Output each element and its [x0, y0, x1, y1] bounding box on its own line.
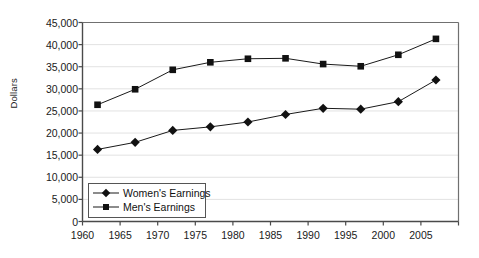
x-axis-tick-label: 1980 — [221, 230, 244, 241]
x-axis-tick-labels: 1960196519701975198019851990199520002005 — [0, 0, 479, 258]
x-axis-tick-label: 1995 — [334, 230, 357, 241]
x-axis-tick-label: 1960 — [71, 230, 94, 241]
x-axis-tick-label: 1985 — [259, 230, 282, 241]
x-axis-tick-label: 1965 — [108, 230, 131, 241]
chart-legend: Women's Earnings Men's Earnings — [88, 183, 206, 218]
x-axis-tick-label: 1990 — [296, 230, 319, 241]
legend-item-womens-earnings: Women's Earnings — [93, 186, 199, 200]
x-axis-tick-label: 1970 — [146, 230, 169, 241]
x-axis-tick-label: 1975 — [184, 230, 207, 241]
diamond-marker-icon — [93, 187, 119, 199]
legend-label: Men's Earnings — [119, 201, 195, 213]
legend-item-mens-earnings: Men's Earnings — [93, 200, 199, 214]
legend-label: Women's Earnings — [119, 187, 211, 199]
x-axis-tick-label: 2000 — [372, 230, 395, 241]
square-marker-icon — [93, 201, 119, 213]
earnings-line-chart: Dollars 05,00010,00015,00020,00025,00030… — [0, 0, 479, 258]
x-axis-tick-label: 2005 — [409, 230, 432, 241]
